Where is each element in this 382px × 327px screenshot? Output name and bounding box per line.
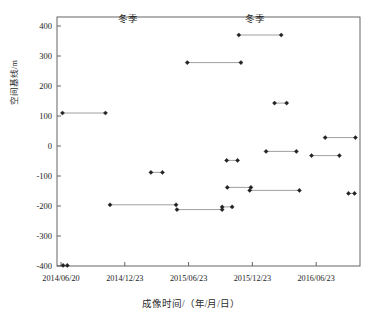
data-point-marker [323, 136, 327, 140]
season-annotation: 冬季 [118, 13, 138, 24]
season-annotation: 冬季 [245, 13, 265, 24]
data-point-marker [285, 101, 289, 105]
data-point-marker [103, 111, 107, 115]
data-point-marker [230, 205, 234, 209]
data-point-marker [309, 154, 313, 158]
data-point-marker [239, 61, 243, 65]
data-point-marker [235, 158, 239, 162]
y-axis-tick-label: 200 [39, 81, 52, 91]
data-point-marker [149, 170, 153, 174]
data-point-marker [352, 191, 356, 195]
data-point-marker [108, 203, 112, 207]
data-point-marker [185, 61, 189, 65]
data-point-marker [297, 188, 301, 192]
data-point-marker [264, 149, 268, 153]
data-point-marker [65, 263, 69, 267]
y-axis-tick-label: -300 [36, 231, 52, 241]
y-axis-tick-label: 0 [48, 141, 52, 151]
data-point-marker [160, 170, 164, 174]
x-axis-title: 成像时间/（年/月/日） [0, 296, 382, 310]
x-axis-tick-label: 2015/06/23 [170, 274, 207, 283]
data-point-marker [220, 205, 224, 209]
data-point-marker [225, 158, 229, 162]
y-axis-tick-label: -400 [36, 261, 52, 271]
data-point-marker [279, 33, 283, 37]
chart-figure: 4003002001000-100-200-300-4002014/06/202… [0, 0, 382, 327]
y-axis-tick-label: 300 [39, 51, 52, 61]
y-axis-title: 空间基线/m [7, 25, 19, 105]
x-axis-tick-label: 2014/06/20 [42, 274, 79, 283]
y-axis-tick-label: 100 [39, 111, 52, 121]
y-axis-tick-label: 400 [39, 21, 52, 31]
x-axis-tick-label: 2015/12/23 [234, 274, 271, 283]
data-point-marker [337, 154, 341, 158]
plot-frame [57, 17, 360, 266]
data-point-marker [175, 208, 179, 212]
data-point-marker [237, 33, 241, 37]
data-point-marker [294, 149, 298, 153]
data-point-marker [272, 101, 276, 105]
baseline-scatter-plot: 4003002001000-100-200-300-4002014/06/202… [0, 0, 382, 327]
data-point-marker [174, 203, 178, 207]
data-point-marker [225, 185, 229, 189]
data-point-marker [353, 136, 357, 140]
y-axis-tick-label: -200 [36, 201, 52, 211]
x-axis-tick-label: 2014/12/23 [106, 274, 143, 283]
y-axis-tick-label: -100 [36, 171, 52, 181]
data-point-marker [60, 111, 64, 115]
x-axis-tick-label: 2016/06/23 [298, 274, 335, 283]
data-point-marker [346, 191, 350, 195]
data-point-marker [61, 263, 65, 267]
